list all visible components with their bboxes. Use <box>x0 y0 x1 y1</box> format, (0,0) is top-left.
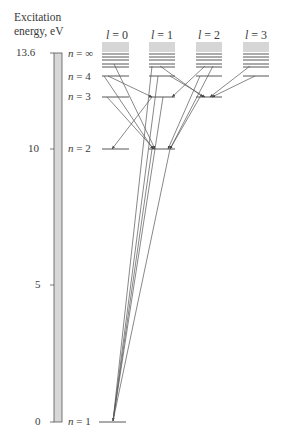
transition-arrows <box>104 64 255 421</box>
energy-level-diagram <box>0 0 286 443</box>
continuum-l0 <box>102 42 129 67</box>
continuum-l3 <box>243 42 269 67</box>
continuum-l2 <box>196 42 222 67</box>
continuum-l1 <box>149 42 175 67</box>
energy-axis-bar <box>50 53 62 422</box>
